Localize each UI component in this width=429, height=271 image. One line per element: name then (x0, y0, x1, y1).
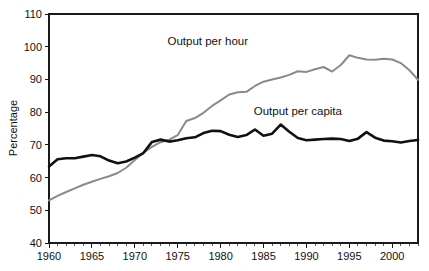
x-tick-label-1975: 1975 (165, 250, 189, 262)
x-tick-label-1985: 1985 (251, 250, 275, 262)
x-tick-label-1965: 1965 (80, 250, 104, 262)
y-tick-label-70: 70 (30, 139, 42, 151)
x-tick-label-2000: 2000 (380, 250, 404, 262)
x-tick-label-1990: 1990 (294, 250, 318, 262)
y-tick-label-100: 100 (24, 41, 42, 53)
y-tick-label-50: 50 (30, 204, 42, 216)
series-label-output-per-hour: Output per hour (167, 35, 248, 47)
y-tick-label-40: 40 (30, 237, 42, 249)
series-label-output-per-capita: Output per capita (254, 105, 343, 117)
y-tick-label-90: 90 (30, 73, 42, 85)
y-axis-title: Percentage (7, 100, 19, 156)
x-tick-label-1995: 1995 (337, 250, 361, 262)
y-tick-label-80: 80 (30, 106, 42, 118)
x-tick-label-1980: 1980 (208, 250, 232, 262)
line-chart: 405060708090100110 196019651970197519801… (0, 0, 429, 271)
chart-container: 405060708090100110 196019651970197519801… (0, 0, 429, 271)
x-tick-label-1960: 1960 (37, 250, 61, 262)
y-tick-label-110: 110 (24, 8, 42, 20)
y-tick-label-60: 60 (30, 172, 42, 184)
x-tick-label-1970: 1970 (123, 250, 147, 262)
